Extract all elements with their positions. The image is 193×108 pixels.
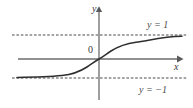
lower-asymptote-label: y = −1 bbox=[139, 85, 167, 95]
x-axis-label: x bbox=[174, 62, 178, 72]
y-axis-arrow-icon bbox=[96, 6, 102, 12]
y-axis-label: y bbox=[92, 4, 96, 14]
function-graph-figure: y x 0 y = 1 y = −1 bbox=[0, 0, 193, 108]
origin-label: 0 bbox=[88, 45, 93, 55]
upper-asymptote-label: y = 1 bbox=[147, 20, 168, 30]
